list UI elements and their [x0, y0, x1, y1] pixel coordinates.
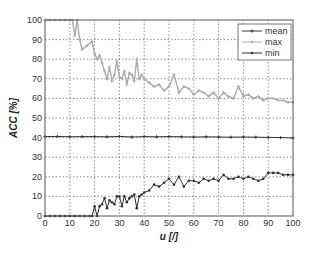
legend-label: max	[265, 37, 283, 47]
y-tick-label: 40	[32, 133, 42, 143]
y-tick-label: 100	[27, 15, 42, 25]
y-tick-label: 10	[32, 191, 42, 201]
x-tick-label: 100	[285, 218, 300, 228]
y-tick-label: 60	[32, 93, 42, 103]
y-tick-label: 80	[32, 54, 42, 64]
legend-label: min	[265, 48, 280, 58]
x-tick-label: 0	[42, 218, 47, 228]
y-tick-label: 70	[32, 74, 42, 84]
y-tick-label: 90	[32, 35, 42, 45]
y-tick-label: 30	[32, 152, 42, 162]
y-axis-label: ACC [%]	[8, 97, 19, 139]
chart: 0102030405060708090100 01020304050607080…	[0, 0, 313, 254]
x-tick-label: 80	[238, 218, 248, 228]
x-tick-label: 10	[65, 218, 75, 228]
x-tick-label: 40	[139, 218, 149, 228]
y-tick-label: 0	[37, 211, 42, 221]
y-axis-ticks: 0102030405060708090100	[27, 15, 42, 221]
x-tick-label: 60	[189, 218, 199, 228]
legend-label: mean	[265, 26, 288, 36]
x-tick-label: 70	[214, 218, 224, 228]
x-axis-label: u [/]	[160, 231, 179, 242]
x-tick-label: 50	[164, 218, 174, 228]
legend: meanmaxmin	[238, 24, 291, 60]
x-axis-ticks: 0102030405060708090100	[42, 218, 300, 228]
x-tick-label: 30	[114, 218, 124, 228]
y-tick-label: 50	[32, 113, 42, 123]
x-tick-label: 20	[90, 218, 100, 228]
x-tick-label: 90	[263, 218, 273, 228]
y-tick-label: 20	[32, 172, 42, 182]
